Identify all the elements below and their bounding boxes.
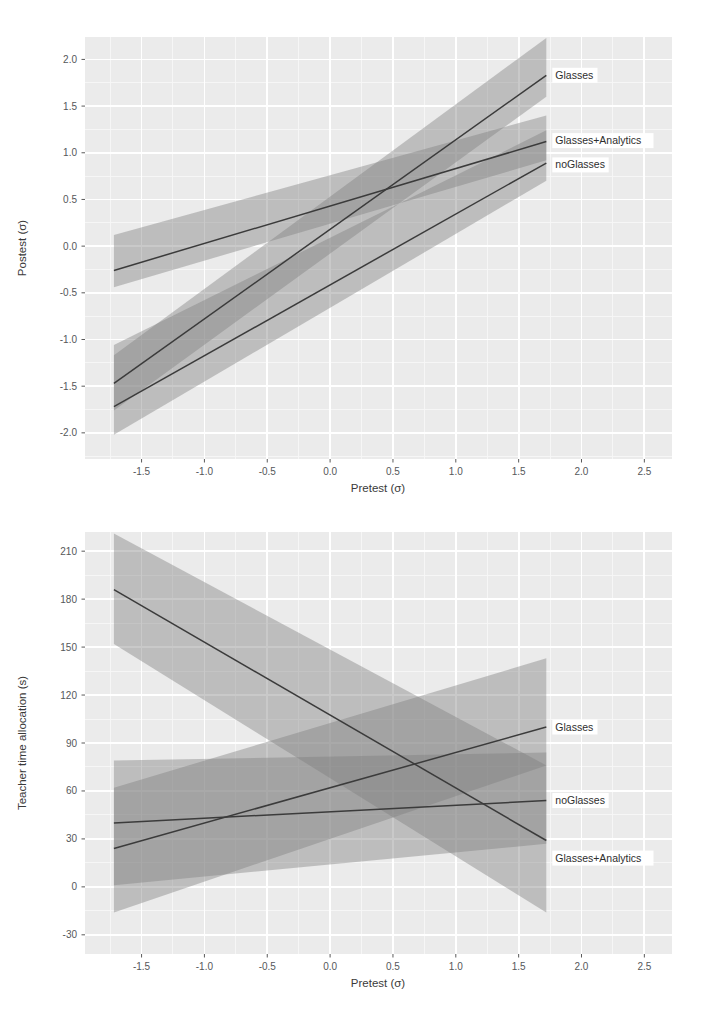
x-tick-label: 1.5 [512, 961, 526, 972]
y-tick-label: 120 [60, 690, 77, 701]
x-axis-title: Pretest (σ) [351, 977, 406, 989]
chart-bottom-svg: GlassesnoGlassesGlasses+Analytics -1.5-1… [0, 510, 709, 1020]
x-tick-label: -1.0 [196, 961, 214, 972]
series-label-glasses: Glasses [555, 721, 593, 733]
series-label-glasses-analytics: Glasses+Analytics [555, 852, 641, 864]
y-axis-title: Postest (σ) [16, 220, 28, 276]
y-tick-label: -0.5 [60, 287, 78, 298]
y-tick-label: -1.5 [60, 381, 78, 392]
x-tick-label: 2.0 [575, 961, 589, 972]
y-tick-label: 1.5 [63, 101, 77, 112]
x-tick-label: 1.0 [449, 961, 463, 972]
x-tick-label: -1.5 [133, 961, 151, 972]
x-tick-label: 0.0 [323, 961, 337, 972]
y-tick-label: -1.0 [60, 334, 78, 345]
series-label-noglasses: noGlasses [555, 794, 605, 806]
y-tick-label: 90 [66, 738, 78, 749]
chart-teacher-time-vs-pretest: GlassesnoGlassesGlasses+Analytics -1.5-1… [0, 510, 709, 1020]
y-tick-label: 1.0 [63, 147, 77, 158]
series-label-noglasses: noGlasses [555, 158, 605, 170]
x-tick-label: 1.5 [512, 466, 526, 477]
y-tick-label: 150 [60, 642, 77, 653]
x-tick-label: -0.5 [259, 961, 277, 972]
y-tick-label: 30 [66, 833, 78, 844]
y-tick-label: 0.0 [63, 241, 77, 252]
x-tick-label: 2.0 [575, 466, 589, 477]
y-tick-label: -30 [63, 929, 78, 940]
x-tick-label: 0.5 [386, 961, 400, 972]
figure-page: GlassesGlasses+AnalyticsnoGlasses -1.5-1… [0, 0, 709, 1020]
x-axis-title: Pretest (σ) [351, 482, 406, 494]
x-tick-label: 2.5 [637, 961, 651, 972]
x-tick-label: 0.0 [323, 466, 337, 477]
y-tick-label: 0.5 [63, 194, 77, 205]
y-tick-label: 60 [66, 785, 78, 796]
y-tick-label: 0 [71, 881, 77, 892]
series-label-glasses-analytics: Glasses+Analytics [555, 134, 641, 146]
x-tick-label: -1.0 [196, 466, 214, 477]
x-tick-label: -1.5 [133, 466, 151, 477]
x-tick-label: 2.5 [637, 466, 651, 477]
y-tick-label: 2.0 [63, 54, 77, 65]
y-axis-title: Teacher time allocation (s) [16, 676, 28, 810]
x-tick-label: 0.5 [386, 466, 400, 477]
y-tick-label: 210 [60, 546, 77, 557]
chart-postest-vs-pretest: GlassesGlasses+AnalyticsnoGlasses -1.5-1… [0, 0, 709, 510]
x-tick-label: -0.5 [259, 466, 277, 477]
x-tick-label: 1.0 [449, 466, 463, 477]
chart-top-svg: GlassesGlasses+AnalyticsnoGlasses -1.5-1… [0, 0, 709, 510]
y-tick-label: 180 [60, 594, 77, 605]
y-tick-label: -2.0 [60, 427, 78, 438]
series-label-glasses: Glasses [555, 69, 593, 81]
